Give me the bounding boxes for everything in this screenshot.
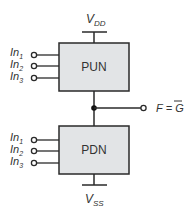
vdd-label: VDD	[86, 12, 106, 28]
pun-input-3-label: In3	[10, 70, 23, 84]
output-label: F=G	[156, 102, 184, 114]
output-terminal	[141, 105, 146, 110]
pdn-input-3-label: In3	[10, 155, 23, 169]
pdn-label: PDN	[81, 143, 106, 157]
pun-input-2-terminal	[31, 63, 36, 68]
cmos-gate-diagram: VDD PUN In1 In2 In3 F=G PDN In1 In2 In3	[0, 0, 190, 216]
pun-input-1-terminal	[31, 52, 36, 57]
pun-inputs: In1 In2 In3	[10, 46, 59, 84]
pdn-input-2-terminal	[31, 148, 36, 153]
pdn-input-1-terminal	[31, 137, 36, 142]
pun-input-3-terminal	[31, 75, 36, 80]
pdn-inputs: In1 In2 In3	[10, 131, 59, 169]
pun-label: PUN	[81, 60, 106, 74]
pdn-input-3-terminal	[31, 160, 36, 165]
vss-label: VSS	[85, 192, 104, 208]
